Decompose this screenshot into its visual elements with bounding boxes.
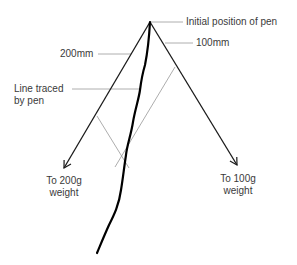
label-200mm: 200mm: [60, 48, 93, 60]
pen-diagram: [0, 0, 297, 265]
label-200g-weight-2: weight: [44, 187, 84, 199]
label-100g-weight: To 100g weight: [218, 173, 258, 197]
pen-trace-line: [97, 22, 150, 253]
label-line-traced-1: Line traced: [14, 83, 63, 95]
label-200g-weight-1: To 200g: [44, 175, 84, 187]
label-200g-weight: To 200g weight: [44, 175, 84, 199]
label-initial-position: Initial position of pen: [186, 16, 277, 28]
construction-line-right: [115, 67, 175, 167]
label-100g-weight-2: weight: [218, 185, 258, 197]
left-string-arrow: [64, 22, 150, 168]
label-100g-weight-1: To 100g: [218, 173, 258, 185]
label-line-traced: Line traced by pen: [14, 83, 63, 107]
label-100mm: 100mm: [196, 37, 229, 49]
label-line-traced-2: by pen: [14, 95, 63, 107]
